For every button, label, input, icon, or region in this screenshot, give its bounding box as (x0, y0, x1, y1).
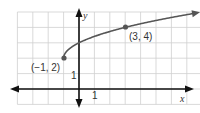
graph: (−1, 2) (3, 4) y x 1 1 (0, 0, 200, 113)
y-unit-label: 1 (71, 70, 77, 81)
x-axis-right-arrow-icon (185, 86, 194, 93)
point-neg1-2 (61, 55, 66, 60)
x-axis-left-arrow-icon (10, 86, 19, 93)
y-axis-down-arrow-icon (76, 99, 83, 108)
point-3-4 (123, 24, 128, 29)
curve-end-arrow-icon (192, 10, 200, 17)
y-axis-label: y (82, 10, 88, 21)
point-label-3-4: (3, 4) (129, 31, 152, 42)
y-axis-up-arrow-icon (76, 8, 83, 17)
point-label-neg1-2: (−1, 2) (31, 62, 60, 73)
grid (17, 12, 200, 104)
x-unit-label: 1 (92, 90, 98, 101)
x-axis-label: x (179, 93, 185, 104)
